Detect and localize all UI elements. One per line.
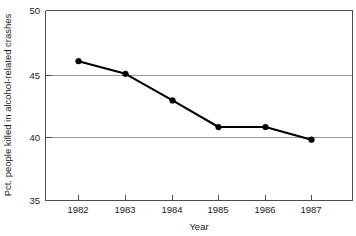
data-point-1986: [263, 124, 269, 130]
y-tick-label-35: 35: [29, 195, 40, 206]
x-tick-label-1987: 1987: [300, 204, 321, 215]
data-point-1987: [309, 137, 315, 143]
line-chart: 50 45 40 35 1982 1983 1984 1985 1986 198…: [0, 0, 356, 236]
y-tick-label-45: 45: [29, 70, 40, 81]
data-point-1983: [123, 71, 129, 77]
x-tick-label-1982: 1982: [67, 204, 88, 215]
x-axis-title: Year: [189, 221, 208, 232]
x-tick-label-1985: 1985: [207, 204, 228, 215]
x-tick-label-1984: 1984: [161, 204, 182, 215]
x-tick-label-1986: 1986: [254, 204, 275, 215]
data-point-1984: [170, 98, 176, 104]
data-point-1982: [76, 58, 82, 64]
data-point-1985: [216, 124, 222, 130]
y-tick-label-50: 50: [29, 5, 40, 16]
y-tick-label-40: 40: [29, 132, 40, 143]
y-axis-title: Pct. people killed in alcohol-related cr…: [2, 13, 13, 196]
chart-container: 50 45 40 35 1982 1983 1984 1985 1986 198…: [0, 0, 356, 236]
x-tick-label-1983: 1983: [114, 204, 135, 215]
